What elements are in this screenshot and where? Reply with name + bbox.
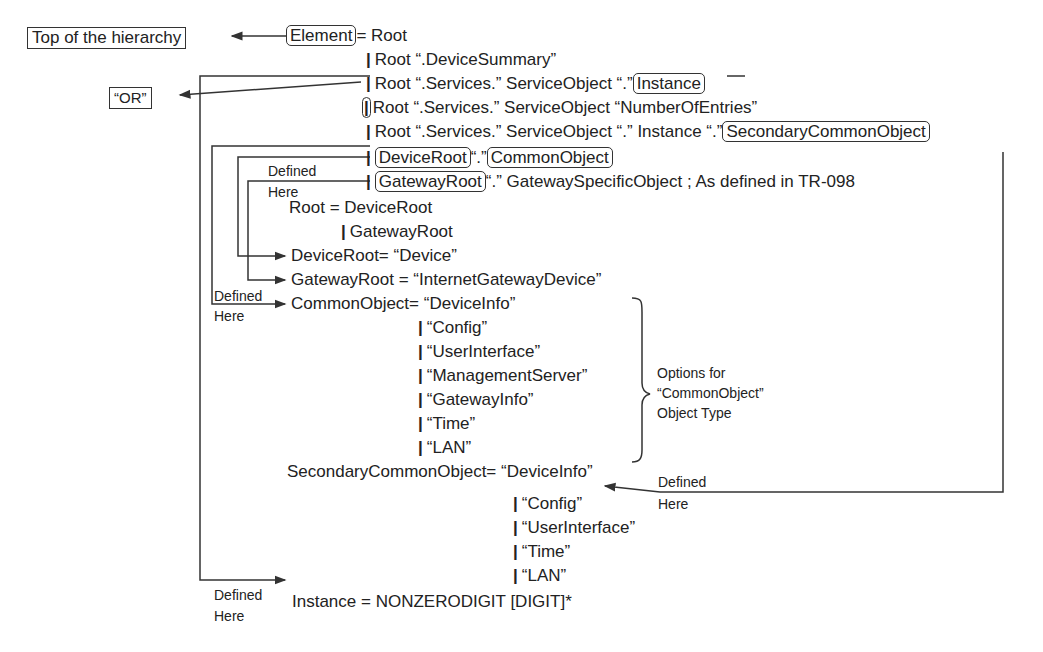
defined-text: Defined xyxy=(214,288,262,304)
or-bar: | xyxy=(418,414,423,433)
option-text: “ManagementServer” xyxy=(427,366,588,385)
here-text: Here xyxy=(214,608,244,624)
gateway-root-token: GatewayRoot xyxy=(375,171,486,192)
or-bar: | xyxy=(418,318,423,337)
gatewayroot-def-text: GatewayRoot = “InternetGatewayDevice” xyxy=(291,270,601,289)
secondary-option: |“Time” xyxy=(513,542,570,562)
note-text: Object Type xyxy=(657,405,731,421)
option-text: “LAN” xyxy=(522,566,566,585)
top-of-hierarchy-label: Top of the hierarchy xyxy=(32,28,181,47)
commonobject-option: |“Config” xyxy=(418,318,487,338)
defined-here-label-2: Defined xyxy=(214,288,262,304)
or-bar: | xyxy=(366,50,371,69)
defined-text: Defined xyxy=(214,587,262,603)
or-bar: | xyxy=(513,518,518,537)
note-text: “CommonObject” xyxy=(657,385,764,401)
here-text: Here xyxy=(214,308,244,324)
option-text: “Time” xyxy=(427,414,475,433)
or-bar: | xyxy=(418,366,423,385)
options-note-line1: Options for xyxy=(657,365,725,381)
commonobject-option: |“Time” xyxy=(418,414,475,434)
deviceroot-definition: DeviceRoot= “Device” xyxy=(291,246,457,266)
defined-text: Defined xyxy=(658,474,706,490)
alt-text: Root “.Services.” ServiceObject “NumberO… xyxy=(373,98,758,117)
commonobject-definition: CommonObject= “DeviceInfo” xyxy=(291,294,515,314)
alt-text: Root “.Services.” ServiceObject “.” Inst… xyxy=(375,122,723,141)
secondarycommonobject-definition: SecondaryCommonObject= “DeviceInfo” xyxy=(287,462,593,482)
options-note-line3: Object Type xyxy=(657,405,731,421)
commonobject-option: |“UserInterface” xyxy=(418,342,540,362)
defined-here-label-1: Defined xyxy=(268,163,316,179)
root-definition-alt: |GatewayRoot xyxy=(341,222,453,242)
root-alternative-2: |Root “.Services.” ServiceObject “.”Inst… xyxy=(366,74,705,94)
top-of-hierarchy-box: Top of the hierarchy xyxy=(27,27,186,49)
device-root-alternative: |DeviceRoot“.”CommonObject xyxy=(366,148,613,168)
dot-literal: “.” xyxy=(471,148,487,167)
option-text: “Time” xyxy=(522,542,570,561)
or-bar: | xyxy=(418,342,423,361)
or-bar: | xyxy=(513,566,518,585)
option-text: “LAN” xyxy=(427,438,471,457)
defined-here-label-4: Defined xyxy=(214,587,262,603)
defined-here-label-2b: Here xyxy=(214,308,244,324)
or-bar: | xyxy=(341,222,346,241)
here-text: Here xyxy=(658,496,688,512)
commonobject-def-text: CommonObject= “DeviceInfo” xyxy=(291,294,515,313)
option-text: “GatewayInfo” xyxy=(427,390,534,409)
secondary-common-object-token: SecondaryCommonObject xyxy=(722,121,929,142)
defined-text: Defined xyxy=(268,163,316,179)
or-bar: | xyxy=(513,494,518,513)
root-def-alt-text: GatewayRoot xyxy=(350,222,453,241)
instance-definition: Instance = NONZERODIGIT [DIGIT]* xyxy=(292,592,572,612)
secondary-option: |“UserInterface” xyxy=(513,518,635,538)
or-bar: | xyxy=(366,148,371,167)
option-text: “UserInterface” xyxy=(522,518,635,537)
root-alternative-3: |Root “.Services.” ServiceObject “Number… xyxy=(362,98,757,118)
defined-here-label-3b: Here xyxy=(658,496,688,512)
gateway-rest: “.” GatewaySpecificObject ; As defined i… xyxy=(486,172,855,191)
alt-text: Root “.Services.” ServiceObject “.” xyxy=(375,74,633,93)
commonobject-option: |“LAN” xyxy=(418,438,471,458)
element-token: Element xyxy=(286,25,356,46)
defined-here-label-4b: Here xyxy=(214,608,244,624)
deviceroot-def-text: DeviceRoot= “Device” xyxy=(291,246,457,265)
secondary-option: |“LAN” xyxy=(513,566,566,586)
secondary-def-text: SecondaryCommonObject= “DeviceInfo” xyxy=(287,462,593,481)
or-bar: | xyxy=(418,390,423,409)
commonobject-option: |“ManagementServer” xyxy=(418,366,587,386)
or-box: “OR” xyxy=(109,87,152,109)
gateway-root-alternative: |GatewayRoot“.” GatewaySpecificObject ; … xyxy=(366,172,855,192)
root-definition: Root = DeviceRoot xyxy=(289,198,432,218)
option-text: “UserInterface” xyxy=(427,342,540,361)
root-alternative-1: |Root “.DeviceSummary” xyxy=(366,50,556,70)
option-text: “Config” xyxy=(427,318,487,337)
option-text: “Config” xyxy=(522,494,582,513)
root-def-text: Root = DeviceRoot xyxy=(289,198,432,217)
defined-here-label-3: Defined xyxy=(658,474,706,490)
or-bar: | xyxy=(366,74,371,93)
commonobject-option: |“GatewayInfo” xyxy=(418,390,534,410)
or-bar: | xyxy=(366,172,371,191)
or-bar: | xyxy=(513,542,518,561)
or-bar: | xyxy=(366,122,371,141)
element-rest: = Root xyxy=(356,26,407,45)
instance-def-text: Instance = NONZERODIGIT [DIGIT]* xyxy=(292,592,572,611)
or-bar: | xyxy=(418,438,423,457)
options-note-line2: “CommonObject” xyxy=(657,385,764,401)
device-root-token: DeviceRoot xyxy=(375,147,471,168)
element-definition: Element= Root xyxy=(286,26,407,46)
or-label: “OR” xyxy=(114,89,147,106)
root-alternative-4: |Root “.Services.” ServiceObject “.” Ins… xyxy=(366,122,930,142)
instance-token: Instance xyxy=(633,73,705,94)
common-object-token: CommonObject xyxy=(487,147,613,168)
gatewayroot-definition: GatewayRoot = “InternetGatewayDevice” xyxy=(291,270,601,290)
secondary-option: |“Config” xyxy=(513,494,582,514)
or-bar-highlighted: | xyxy=(362,97,371,118)
alt-text: Root “.DeviceSummary” xyxy=(375,50,556,69)
note-text: Options for xyxy=(657,365,725,381)
